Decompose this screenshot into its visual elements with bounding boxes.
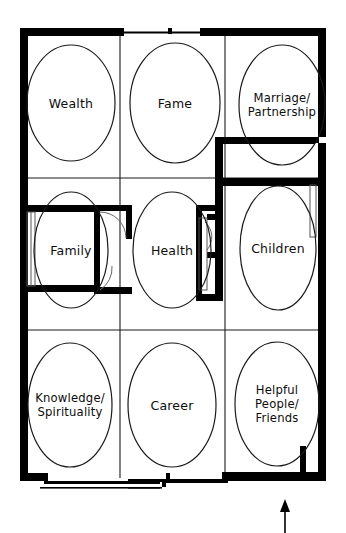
exterior-walls (20, 28, 326, 489)
ellipse-wealth (27, 45, 115, 161)
interior-wall-stub-b (207, 252, 223, 258)
ellipse-helpful-people-friends (235, 342, 319, 466)
wall-bottom-stub-1 (162, 481, 166, 487)
ellipse-fame (130, 43, 220, 163)
window-bottom-center-2 (168, 479, 222, 481)
ellipse-knowledge-spirituality (28, 343, 112, 467)
bagua-floorplan-diagram: Wealth Fame Marriage/ Partnership Family… (0, 0, 346, 533)
wall-bottom-right (222, 472, 304, 481)
interior-wall-closet-right (126, 205, 132, 239)
window-bottom-left-2 (128, 479, 166, 482)
ellipse-career (128, 343, 216, 467)
interior-wall-horizontal-marriage (215, 137, 315, 144)
window-top-center-2 (172, 32, 200, 34)
wall-top-right (200, 28, 326, 36)
window-right-children (310, 185, 316, 237)
floor-plan-drawing (0, 0, 346, 533)
ellipse-children (240, 186, 316, 310)
bagua-grid-lines (24, 33, 322, 478)
interior-wall-closet-bottom (94, 287, 132, 294)
window-top-center (124, 32, 168, 34)
interior-walls (24, 137, 323, 301)
wall-top-left (20, 28, 124, 36)
wall-top-center-stub (168, 28, 172, 34)
interior-wall-stub-a (207, 214, 223, 220)
window-bottom-sill-2 (128, 487, 160, 489)
interior-wall-vertical-children (215, 186, 223, 301)
interior-windows (27, 185, 316, 290)
bagua-ellipses (27, 43, 325, 467)
wall-right-bottom-return (318, 440, 326, 481)
interior-wall-family-top (24, 205, 100, 212)
arrow-head-icon (280, 499, 290, 512)
ellipse-marriage-partnership (239, 45, 325, 165)
entrance-direction-arrow (280, 499, 290, 533)
door-swing-arcs (100, 212, 212, 290)
interior-wall-horizontal-upper (215, 178, 323, 186)
wall-right-lower (318, 143, 326, 473)
wall-bottom-left-return (20, 473, 44, 481)
window-bottom-center (166, 481, 228, 483)
interior-wall-family-right (94, 205, 100, 292)
